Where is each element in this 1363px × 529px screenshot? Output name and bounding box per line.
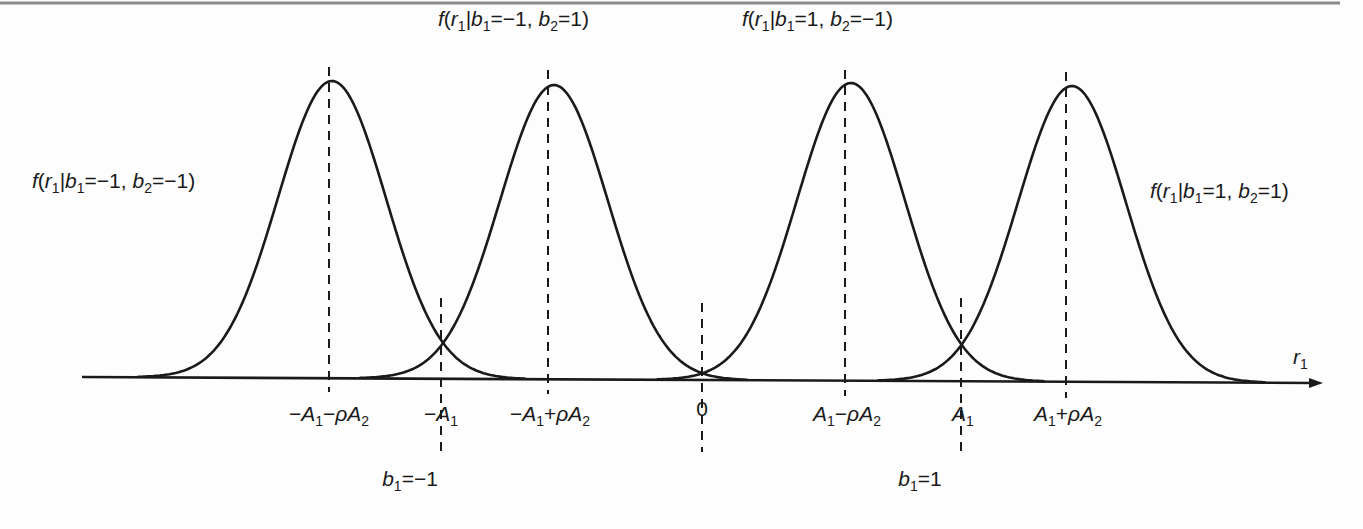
figure-canvas: f(r1|b1=−1, b2=−1) f(r1|b1=−1, b2=1) f(r… <box>0 0 1363 529</box>
pdf-plot <box>0 0 1363 529</box>
dashed-guides <box>329 67 1066 452</box>
curve-label-c1: f(r1|b1=−1, b2=−1) <box>32 170 195 191</box>
tick-label-neg-a1: −A1 <box>424 403 458 424</box>
tick-label-zero: 0 <box>696 398 708 419</box>
axis-variable-label: r1 <box>1293 346 1308 367</box>
gaussian-curve-c1 <box>138 81 526 379</box>
tick-label-a1-plus-rho-a2: A1+ρA2 <box>1034 403 1102 424</box>
r1-axis <box>82 377 1313 383</box>
curve-label-c3: f(r1|b1=1, b2=−1) <box>742 8 893 29</box>
tick-label-neg-a1-minus-rho-a2: −A1−ρA2 <box>289 403 369 424</box>
decision-label-b1-pos: b1=1 <box>898 468 941 489</box>
axis-arrow-icon <box>1309 378 1323 388</box>
gaussian-curve-c3 <box>657 83 1045 381</box>
curve-label-c2: f(r1|b1=−1, b2=1) <box>438 8 589 29</box>
tick-label-neg-a1-plus-rho-a2: −A1+ρA2 <box>510 403 590 424</box>
curve-label-c4: f(r1|b1=1, b2=1) <box>1150 180 1289 201</box>
tick-label-a1: A1 <box>952 403 974 424</box>
decision-label-b1-neg: b1=−1 <box>382 468 438 489</box>
gaussian-curve-c2 <box>360 85 748 380</box>
tick-label-a1-minus-rho-a2: A1−ρA2 <box>813 403 881 424</box>
gaussian-curve-c4 <box>878 86 1266 382</box>
